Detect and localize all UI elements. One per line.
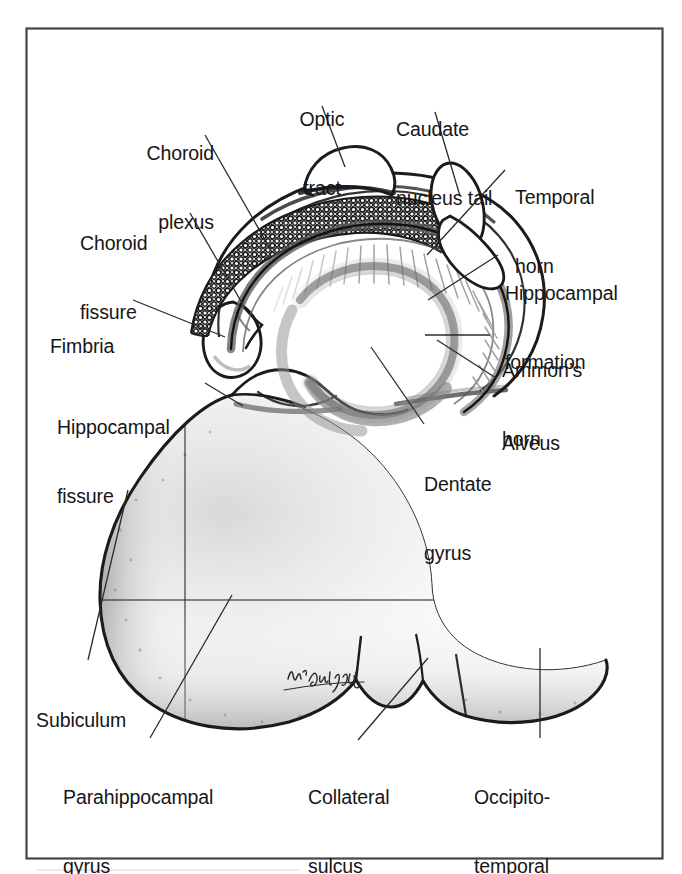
label-parahippocampal-gyrus-line2: gyrus	[63, 855, 283, 874]
label-ammons-horn-line1: Ammon’s	[502, 359, 652, 382]
label-dentate-gyrus-line1: Dentate	[424, 473, 554, 496]
label-dentate-gyrus-line2: gyrus	[424, 542, 554, 565]
label-optic-tract: Optic tract	[272, 62, 372, 223]
label-temporal-horn-line1: Temporal	[515, 186, 665, 209]
label-occipito-temporal-gyrus-line1: Occipito-	[474, 786, 624, 809]
label-collateral-sulcus: Collateral sulcus	[308, 740, 448, 874]
label-optic-tract-line2: tract	[272, 177, 372, 200]
label-choroid-plexus-line1: Choroid	[74, 142, 214, 165]
label-parahippocampal-gyrus-line1: Parahippocampal	[63, 786, 283, 809]
label-parahippocampal-gyrus: Parahippocampal gyrus	[63, 740, 283, 874]
label-fimbria-line1: Fimbria	[50, 335, 160, 358]
label-occipito-temporal-gyrus-line2: temporal	[474, 855, 624, 874]
label-subiculum-line1: Subiculum	[36, 709, 176, 732]
label-optic-tract-line1: Optic	[272, 108, 372, 131]
label-hippocampal-fissure-line1: Hippocampal	[57, 416, 207, 439]
label-occipito-temporal-gyrus: Occipito- temporal gyrus	[474, 740, 624, 874]
label-dentate-gyrus: Dentate gyrus	[424, 427, 554, 588]
label-collateral-sulcus-line2: sulcus	[308, 855, 448, 874]
label-fimbria: Fimbria	[50, 289, 160, 381]
label-caudate-nucleus-tail-line1: Caudate	[396, 118, 576, 141]
label-collateral-sulcus-line1: Collateral	[308, 786, 448, 809]
label-hippocampal-formation-line1: Hippocampal	[505, 282, 675, 305]
label-hippocampal-fissure-line2: fissure	[57, 485, 207, 508]
label-choroid-fissure-line1: Choroid	[80, 232, 220, 255]
label-hippocampal-fissure: Hippocampal fissure	[57, 370, 207, 531]
